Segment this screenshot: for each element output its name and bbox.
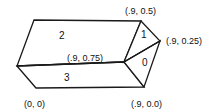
top-right-vertex-label: (.9, 0.5): [125, 6, 156, 16]
middle-junction-label: (.9, 0.75): [67, 53, 103, 63]
diagram-canvas: (.9, 0.5) (.9, 0.25) (.9, 0.75) (0, 0) (…: [0, 0, 218, 112]
right-tip-vertex-label: (.9, 0.25): [166, 36, 202, 46]
face-label-0: 0: [142, 58, 148, 68]
face-label-3: 3: [64, 73, 70, 83]
face-label-1: 1: [141, 30, 147, 40]
origin-vertex-label: (0, 0): [24, 99, 45, 109]
face-label-2: 2: [59, 31, 65, 41]
prism-wireframe: [0, 0, 218, 112]
bottom-right-vertex-label: (.9, 0.0): [131, 99, 162, 109]
